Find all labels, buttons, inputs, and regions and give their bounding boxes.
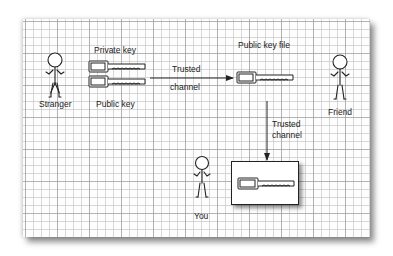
you-figure-icon xyxy=(194,157,210,198)
public-key-icon xyxy=(89,76,145,87)
received-key-box xyxy=(231,161,299,205)
received-key-icon xyxy=(232,162,298,204)
private-key-icon xyxy=(89,61,145,72)
friend-figure-icon xyxy=(331,55,349,99)
stranger-figure-icon xyxy=(46,53,64,97)
public-key-file-icon xyxy=(237,72,293,83)
horizontal-channel-label-line2: channel xyxy=(170,82,200,92)
stranger-label: Stranger xyxy=(39,99,72,109)
private-key-label: Private key xyxy=(94,45,136,55)
vertical-channel-label-line1: Trusted xyxy=(272,119,301,129)
horizontal-channel-label-line1: Trusted xyxy=(172,64,201,74)
public-key-file-label: Public key file xyxy=(238,40,290,50)
friend-label: Friend xyxy=(328,107,352,117)
vertical-channel-label-line2: channel xyxy=(272,130,302,140)
you-label: You xyxy=(194,211,208,221)
public-key-label: Public key xyxy=(96,99,135,109)
